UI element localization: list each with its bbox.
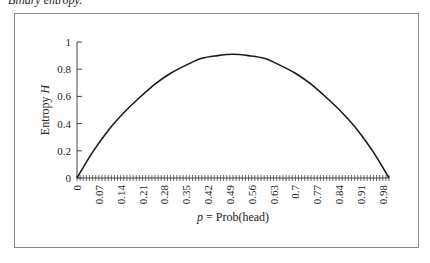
x-tick-label: 0.21 — [137, 185, 149, 204]
x-tick-label: 0.91 — [355, 185, 367, 204]
x-axis-label-symbol: p — [196, 210, 203, 224]
y-tick-label: 0.4 — [57, 118, 71, 130]
x-tick-label: 0.7 — [289, 185, 301, 199]
y-tick-label: 1 — [66, 36, 72, 48]
entropy-chart: 00.20.40.60.81 00.070.140.210.280.350.42… — [0, 0, 430, 263]
y-tick-label: 0.2 — [57, 145, 71, 157]
x-tick-label: 0.49 — [224, 185, 236, 205]
x-tick-label: 0 — [71, 185, 83, 191]
y-tick-label: 0 — [66, 172, 72, 184]
entropy-curve — [77, 54, 389, 178]
y-tick-label: 0.8 — [57, 63, 71, 75]
x-axis-label: p = Prob(head) — [196, 210, 269, 224]
x-tick-label: 0.42 — [202, 185, 214, 204]
y-axis: 00.20.40.60.81 — [57, 36, 82, 184]
x-tick-label: 0.28 — [158, 185, 170, 205]
y-axis-label-symbol: H — [38, 84, 52, 95]
y-axis-label: Entropy H — [38, 84, 52, 136]
x-tick-label: 0.07 — [93, 185, 105, 205]
x-axis-label-text: = Prob(head) — [203, 210, 269, 224]
x-tick-label: 0.77 — [311, 185, 323, 205]
y-tick-label: 0.6 — [57, 90, 71, 102]
x-tick-label: 0.14 — [115, 185, 127, 205]
x-tick-label: 0.56 — [246, 185, 258, 205]
x-tick-label: 0.63 — [268, 185, 280, 205]
x-tick-label: 0.98 — [377, 185, 389, 205]
x-tick-label: 0.35 — [180, 185, 192, 205]
x-tick-label: 0.84 — [333, 185, 345, 205]
y-axis-label-text: Entropy — [38, 94, 52, 136]
x-axis: 00.070.140.210.280.350.420.490.560.630.7… — [71, 175, 389, 204]
